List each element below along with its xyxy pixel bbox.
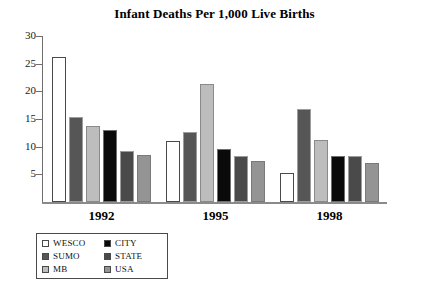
y-axis-tick (36, 174, 43, 175)
x-axis-label-1998: 1998 (280, 208, 379, 224)
legend-label-city: CITY (115, 239, 137, 248)
legend-label-wesco: WESCO (53, 239, 86, 248)
x-axis-label-1995: 1995 (166, 208, 265, 224)
bar-usa-1998 (365, 163, 379, 202)
bar-city-1998 (331, 156, 345, 202)
legend-item-city[interactable]: CITY (104, 237, 166, 250)
plot-area (42, 36, 387, 202)
infant-mortality-bar-chart: Infant Deaths Per 1,000 Live Births 5101… (0, 0, 429, 285)
bar-wesco-1998 (280, 173, 294, 202)
bar-mb-1992 (86, 126, 100, 202)
y-axis-tick (36, 64, 43, 65)
legend-label-sumo: SUMO (53, 252, 80, 261)
legend-swatch-sumo-icon (42, 253, 49, 260)
bar-state-1998 (348, 156, 362, 202)
y-axis-tick-label: 25 (4, 58, 36, 69)
bar-wesco-1995 (166, 141, 180, 202)
legend-item-state[interactable]: STATE (104, 250, 166, 263)
bar-state-1995 (234, 156, 248, 202)
legend-label-state: STATE (115, 252, 142, 261)
legend-item-wesco[interactable]: WESCO (42, 237, 104, 250)
bar-state-1992 (120, 151, 134, 202)
legend-item-sumo[interactable]: SUMO (42, 250, 104, 263)
chart-legend: WESCOCITYSUMOSTATEMBUSA (36, 233, 168, 279)
bar-sumo-1998 (297, 109, 311, 202)
y-axis-tick (36, 36, 43, 37)
legend-items: WESCOCITYSUMOSTATEMBUSA (42, 237, 166, 276)
bar-wesco-1992 (52, 57, 66, 202)
bar-sumo-1995 (183, 132, 197, 202)
y-axis-tick (36, 91, 43, 92)
legend-swatch-city-icon (104, 240, 111, 247)
legend-swatch-mb-icon (42, 266, 49, 273)
legend-swatch-state-icon (104, 253, 111, 260)
bar-usa-1992 (137, 155, 151, 202)
y-axis-tick-label: 20 (4, 85, 36, 96)
y-axis-tick-label: 15 (4, 113, 36, 124)
bar-mb-1995 (200, 84, 214, 202)
bar-mb-1998 (314, 140, 328, 202)
y-axis-tick-label: 30 (4, 30, 36, 41)
y-axis-tick-label: 5 (4, 168, 36, 179)
y-axis-tick (36, 147, 43, 148)
legend-label-usa: USA (115, 265, 134, 274)
legend-swatch-wesco-icon (42, 240, 49, 247)
x-axis-label-1992: 1992 (52, 208, 151, 224)
x-axis-line (42, 202, 387, 204)
y-axis-tick-label: 10 (4, 141, 36, 152)
legend-item-usa[interactable]: USA (104, 263, 166, 276)
legend-swatch-usa-icon (104, 266, 111, 273)
bar-city-1995 (217, 149, 231, 202)
bar-usa-1995 (251, 161, 265, 203)
chart-title: Infant Deaths Per 1,000 Live Births (0, 6, 429, 22)
bar-city-1992 (103, 130, 117, 202)
legend-item-mb[interactable]: MB (42, 263, 104, 276)
y-axis-tick (36, 119, 43, 120)
legend-label-mb: MB (53, 265, 67, 274)
y-axis-labels: 51015202530 (0, 0, 36, 285)
bar-sumo-1992 (69, 117, 83, 202)
